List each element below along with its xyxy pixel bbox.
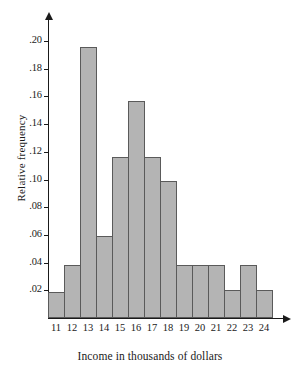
histogram-bar: [192, 265, 209, 318]
y-tick-label: .18: [14, 62, 42, 73]
histogram-bar: [176, 265, 193, 318]
y-axis-line: [48, 20, 49, 318]
histogram-bar: [80, 47, 97, 318]
y-tick-label: .16: [14, 89, 42, 100]
x-tick-label: 24: [254, 322, 274, 333]
y-tick-label: .20: [14, 34, 42, 45]
histogram-bar: [112, 157, 129, 318]
histogram-bar: [160, 181, 177, 318]
histogram-figure: Relative frequency .20.18.16.14.12.10.08…: [0, 0, 300, 377]
histogram-bar: [256, 290, 273, 318]
histogram-bar: [64, 265, 81, 318]
histogram-bar: [240, 265, 257, 318]
histogram-bar: [144, 157, 161, 318]
y-tick-label: .04: [14, 256, 42, 267]
y-tick-label: .10: [14, 173, 42, 184]
y-tick-label: .02: [14, 283, 42, 294]
x-axis-arrow-icon: [283, 315, 291, 323]
histogram-bar: [224, 290, 241, 318]
y-axis-arrow-icon: [45, 12, 53, 20]
histogram-bar: [48, 292, 65, 318]
y-tick-label: .06: [14, 228, 42, 239]
x-axis-line: [48, 318, 284, 319]
histogram-bar: [208, 265, 225, 318]
y-tick-label: .14: [14, 117, 42, 128]
histogram-bar: [96, 236, 113, 318]
x-axis-title: Income in thousands of dollars: [0, 350, 300, 362]
y-tick-label: .08: [14, 200, 42, 211]
histogram-bar: [128, 101, 145, 318]
y-tick-label: .12: [14, 145, 42, 156]
